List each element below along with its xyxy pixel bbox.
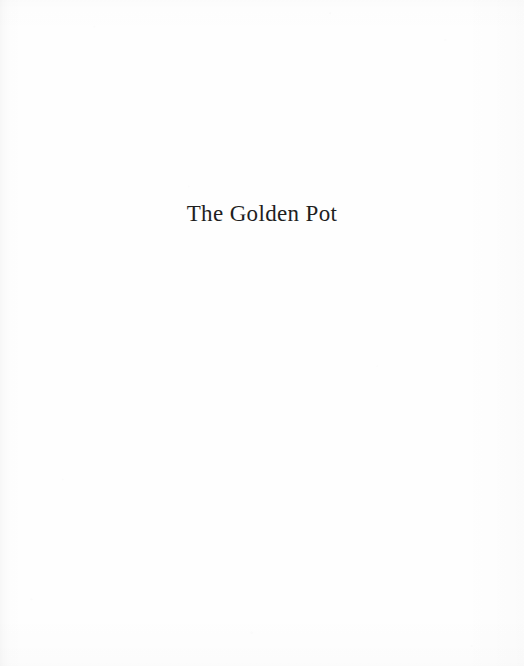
scanned-page: The Golden Pot: [0, 0, 524, 666]
paper-vignette: [0, 0, 524, 666]
page-title: The Golden Pot: [187, 200, 338, 228]
paper-grain-texture: [0, 0, 524, 666]
title-block: The Golden Pot: [0, 200, 524, 228]
